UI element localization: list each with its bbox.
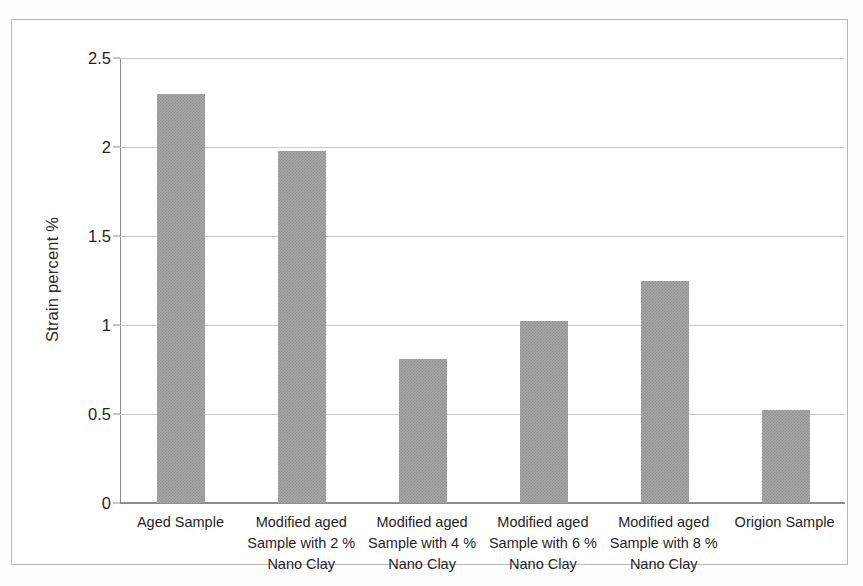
bar-0 bbox=[157, 94, 205, 503]
gridline-2 bbox=[120, 147, 845, 148]
y-tick-label-1.5: 1.5 bbox=[88, 227, 111, 246]
x-label-line: Nano Clay bbox=[361, 554, 483, 575]
gridline-2.5 bbox=[120, 58, 845, 59]
x-label-3: Modified agedSample with 6 %Nano Clay bbox=[482, 512, 604, 575]
bar-4 bbox=[641, 281, 689, 504]
x-label-line: Modified aged bbox=[482, 512, 604, 533]
y-tick-mark-2.5 bbox=[113, 58, 120, 59]
x-label-line: Sample with 2 % bbox=[240, 533, 362, 554]
y-tick-mark-2 bbox=[113, 147, 120, 148]
bar-5 bbox=[762, 410, 810, 503]
y-axis-spine bbox=[120, 58, 121, 503]
gridline-0.5 bbox=[120, 414, 845, 415]
plot-area: 00.511.522.5 bbox=[120, 58, 845, 503]
x-label-2: Modified agedSample with 4 %Nano Clay bbox=[361, 512, 483, 575]
bar-1 bbox=[278, 151, 326, 503]
y-tick-label-0.5: 0.5 bbox=[88, 405, 111, 424]
x-label-0: Aged Sample bbox=[119, 512, 241, 533]
x-label-line: Modified aged bbox=[240, 512, 362, 533]
x-label-line: Sample with 4 % bbox=[361, 533, 483, 554]
x-label-line: Nano Clay bbox=[482, 554, 604, 575]
gridline-0 bbox=[120, 503, 845, 504]
figure-frame: Strain percent % 00.511.522.5 Aged Sampl… bbox=[11, 19, 848, 565]
chart-page: Strain percent % 00.511.522.5 Aged Sampl… bbox=[0, 0, 863, 586]
y-tick-mark-0 bbox=[113, 503, 120, 504]
y-tick-mark-0.5 bbox=[113, 414, 120, 415]
x-label-line: Modified aged bbox=[603, 512, 725, 533]
x-label-line: Sample with 8 % bbox=[603, 533, 725, 554]
x-label-1: Modified agedSample with 2 %Nano Clay bbox=[240, 512, 362, 575]
y-tick-mark-1 bbox=[113, 325, 120, 326]
y-tick-label-0: 0 bbox=[102, 494, 111, 513]
x-label-line: Origion Sample bbox=[724, 512, 846, 533]
x-label-line: Sample with 6 % bbox=[482, 533, 604, 554]
x-label-line: Aged Sample bbox=[119, 512, 241, 533]
y-axis-title: Strain percent % bbox=[43, 180, 62, 380]
y-tick-mark-1.5 bbox=[113, 236, 120, 237]
y-tick-label-1: 1 bbox=[102, 316, 111, 335]
x-label-4: Modified agedSample with 8 %Nano Clay bbox=[603, 512, 725, 575]
gridline-1 bbox=[120, 325, 845, 326]
x-label-line: Nano Clay bbox=[240, 554, 362, 575]
x-label-line: Modified aged bbox=[361, 512, 483, 533]
x-axis-category-labels: Aged SampleModified agedSample with 2 %N… bbox=[120, 512, 845, 586]
y-tick-label-2: 2 bbox=[102, 138, 111, 157]
x-label-5: Origion Sample bbox=[724, 512, 846, 533]
bar-2 bbox=[399, 359, 447, 503]
x-label-line: Nano Clay bbox=[603, 554, 725, 575]
bar-3 bbox=[520, 321, 568, 503]
gridline-1.5 bbox=[120, 236, 845, 237]
y-tick-label-2.5: 2.5 bbox=[88, 49, 111, 68]
